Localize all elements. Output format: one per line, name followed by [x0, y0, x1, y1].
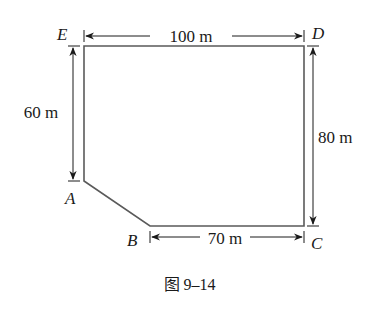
- vertex-label-e: E: [56, 25, 68, 44]
- dimension-label-bottom: 70 m: [208, 229, 242, 248]
- land-plot-outline: [84, 46, 304, 226]
- vertex-label-d: D: [311, 24, 325, 43]
- figure-caption: 图 9–14: [0, 271, 379, 295]
- dimension-right: 80 m: [307, 46, 352, 226]
- vertex-label-a: A: [64, 189, 76, 208]
- figure-diagram: 100 m 60 m 80 m 70 m E D A B C: [0, 0, 379, 311]
- dimension-bottom: 70 m: [150, 228, 304, 248]
- vertex-label-c: C: [311, 234, 323, 253]
- dimension-top: 100 m: [84, 26, 304, 46]
- dimension-label-left: 60 m: [24, 103, 58, 122]
- dimension-label-right: 80 m: [318, 128, 352, 147]
- dimension-label-top: 100 m: [170, 27, 213, 46]
- dimension-left: 60 m: [24, 46, 80, 181]
- vertex-label-b: B: [127, 231, 138, 250]
